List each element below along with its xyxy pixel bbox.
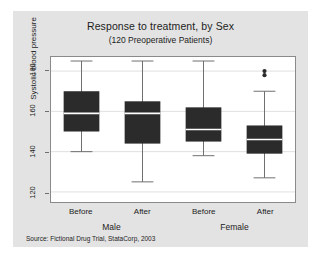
outlier-point	[262, 69, 266, 73]
x-group-label: Female	[190, 222, 280, 232]
chart-title: Response to treatment, by Sex	[13, 20, 308, 32]
box-iqr	[186, 107, 222, 141]
box-iqr	[64, 91, 100, 131]
box-iqr	[125, 101, 161, 143]
figure-card: Response to treatment, by Sex (120 Preop…	[13, 11, 308, 247]
y-tick-mark	[45, 111, 49, 112]
y-tick-mark	[45, 70, 49, 71]
x-tick-label: Before	[174, 207, 234, 216]
plot-area	[50, 56, 296, 203]
y-tick-label: 180	[28, 59, 37, 81]
x-tick-label: After	[235, 207, 295, 216]
boxplot-male-after	[125, 61, 161, 182]
boxplot-canvas	[51, 57, 295, 202]
chart-subtitle: (120 Preoperative Patients)	[13, 35, 308, 45]
y-tick-label: 120	[28, 181, 37, 203]
y-tick-label: 140	[28, 140, 37, 162]
boxplot-female-before	[186, 61, 222, 156]
y-tick-mark	[45, 152, 49, 153]
source-note: Source: Fictional Drug Trial, StataCorp,…	[26, 235, 155, 242]
y-tick-label: 160	[28, 100, 37, 122]
x-tick-label: Before	[51, 207, 111, 216]
y-tick-mark	[45, 193, 49, 194]
outlier-point	[262, 73, 266, 77]
boxplot-male-before	[64, 61, 100, 152]
x-tick-label: After	[112, 207, 172, 216]
boxplot-female-after	[247, 69, 283, 178]
x-group-label: Male	[67, 222, 157, 232]
